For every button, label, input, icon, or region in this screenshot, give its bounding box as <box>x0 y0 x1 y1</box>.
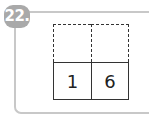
problem-number-badge: 22. <box>4 5 30 28</box>
digit-ones: 6 <box>91 62 129 100</box>
given-number-row: 1 6 <box>53 62 129 100</box>
problem-frame-top-line <box>28 11 149 13</box>
answer-row <box>53 24 129 62</box>
digit-tens: 1 <box>53 62 91 100</box>
answer-box-ones[interactable] <box>91 24 129 62</box>
answer-box-tens[interactable] <box>53 24 91 62</box>
digit-grid: 1 6 <box>53 24 129 100</box>
